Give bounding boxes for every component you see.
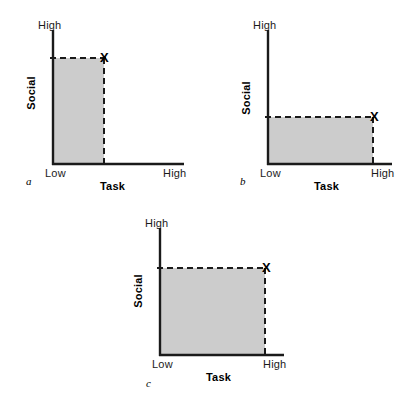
panel-a-y-axis-title: Social xyxy=(25,75,37,111)
panel-c-marker-x: X xyxy=(262,261,271,274)
panel-c: High Low High Task Social X c xyxy=(104,200,313,400)
panel-b-x-high-label: High xyxy=(371,167,394,179)
panel-a-x-high-label: High xyxy=(163,167,186,179)
panel-b-y-high-label: High xyxy=(253,19,276,31)
figure-container: High Low High Task Social X a High Low H… xyxy=(0,0,418,400)
panel-a-letter: a xyxy=(26,175,32,187)
panel-b-letter: b xyxy=(240,175,246,187)
panel-a: High Low High Task Social X a xyxy=(0,0,209,200)
panel-b-x-low-label: Low xyxy=(260,167,281,179)
panel-a-x-axis-title: Task xyxy=(100,180,125,192)
panel-b: High Low High Task Social X b xyxy=(209,0,418,200)
panel-c-letter: c xyxy=(146,377,151,389)
panel-b-x-axis-title: Task xyxy=(314,180,339,192)
panel-c-x-low-label: Low xyxy=(152,358,173,370)
panel-c-y-high-label: High xyxy=(145,217,168,229)
panel-a-shaded-region xyxy=(54,58,104,164)
panel-c-x-high-label: High xyxy=(263,358,286,370)
panel-c-x-axis-title: Task xyxy=(206,371,231,383)
panel-b-y-axis-title: Social xyxy=(240,80,252,116)
panel-c-shaded-region xyxy=(161,268,265,355)
panel-a-y-high-label: High xyxy=(38,19,61,31)
panel-a-marker-x: X xyxy=(100,51,109,64)
panel-b-shaded-region xyxy=(269,117,373,164)
panel-a-x-low-label: Low xyxy=(45,167,66,179)
panel-b-marker-x: X xyxy=(370,110,379,123)
panel-c-y-axis-title: Social xyxy=(132,273,144,309)
